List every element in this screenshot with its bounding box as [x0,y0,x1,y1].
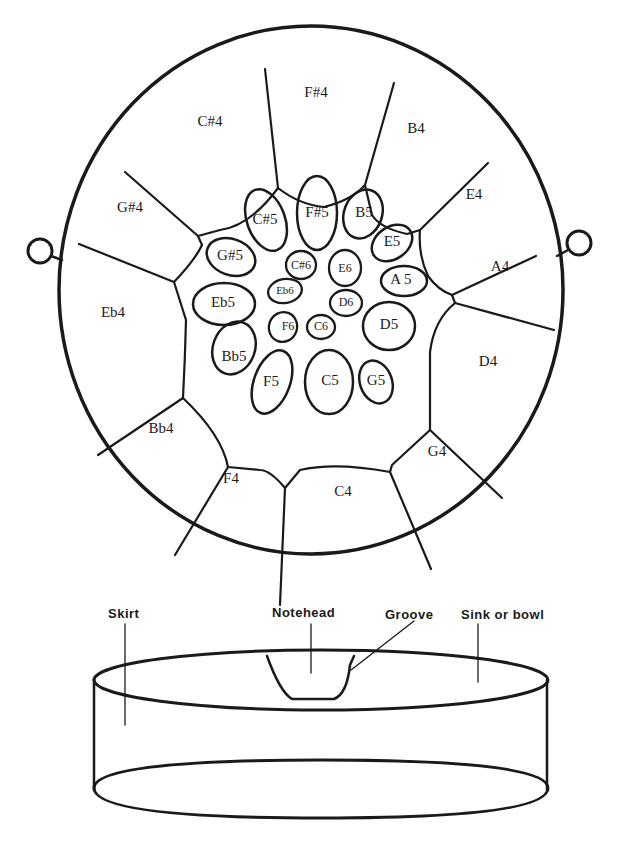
note-gs5: G#5 [217,247,243,263]
note-f6: F6 [282,319,295,333]
note-cs4[interactable]: C#4 [197,113,223,129]
note-eb5: Eb5 [211,294,235,310]
inner-ring-notes: C#6 E6 Eb6 D6 F6 C6 [265,250,362,346]
note-f4[interactable]: F4 [223,470,239,486]
label-skirt: Skirt [108,606,140,621]
note-fs5: F#5 [305,204,328,220]
note-f5: F5 [263,373,279,389]
middle-ring-notes: F#5 B5 E5 A 5 D5 G5 C5 F5 Bb5 Eb5 G#5 C#… [193,176,427,419]
note-d4[interactable]: D4 [479,353,498,369]
note-g5: G5 [367,372,385,388]
note-a4[interactable]: A4 [491,258,510,274]
note-d5: D5 [380,316,398,332]
note-a5: A 5 [390,271,411,287]
steelpan-diagram: F#4 B4 E4 A4 D4 G4 C4 F4 Bb4 Eb4 G#4 C#4… [0,0,623,846]
note-eb6: Eb6 [276,284,294,296]
note-cs5: C#5 [252,211,277,227]
note-bb4[interactable]: Bb4 [148,420,174,436]
left-hanger-icon [28,239,62,263]
note-d6: D6 [339,295,354,309]
bottom-rim [94,760,548,818]
note-bb5: Bb5 [221,348,246,364]
note-b5: B5 [355,204,373,220]
note-g4[interactable]: G4 [428,443,447,459]
note-dividers [79,69,554,605]
label-notehead: Notehead [272,605,335,620]
pan-rim [59,26,563,554]
note-e5: E5 [384,233,401,249]
note-e6: E6 [338,261,351,275]
note-c5: C5 [321,372,339,388]
leader-groove [351,621,414,670]
note-gs4[interactable]: G#4 [117,199,143,215]
label-sink: Sink or bowl [461,607,544,622]
pan-cross-section: Skirt Notehead Groove Sink or bowl [94,605,548,818]
outer-ring-notes: F#4 B4 E4 A4 D4 G4 C4 F4 Bb4 Eb4 G#4 C#4 [101,84,510,499]
top-rim [94,650,548,710]
pan-top-view: F#4 B4 E4 A4 D4 G4 C4 F4 Bb4 Eb4 G#4 C#4… [28,26,591,605]
note-c6: C6 [314,319,328,333]
note-fs4[interactable]: F#4 [304,84,328,100]
label-groove: Groove [385,607,434,622]
note-e4[interactable]: E4 [466,186,483,202]
note-b4[interactable]: B4 [407,120,425,136]
note-cs6: C#6 [291,258,311,272]
note-c4[interactable]: C4 [334,483,352,499]
note-eb4[interactable]: Eb4 [101,304,126,320]
